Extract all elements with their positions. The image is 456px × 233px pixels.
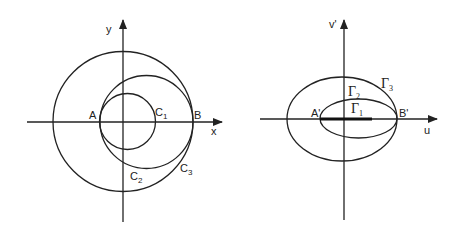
point-b-prime-label: B' [399,107,408,119]
point-a-label: A [89,109,97,121]
gamma2-label: Γ2 [348,84,360,101]
right-diagram: v' u A' B' Γ1 Γ2 Γ3 [260,18,437,220]
gamma3-label: Γ3 [381,76,393,93]
c3-label: C3 [180,162,193,177]
c2-label: C2 [130,170,143,185]
x-axis-label: x [211,125,217,137]
point-b-label: B [194,109,201,121]
y-axis-label: y [106,23,112,35]
c1-label: C1 [155,106,168,121]
v-axis-label: v' [329,18,337,30]
gamma1-label: Γ1 [351,101,363,118]
u-axis-label: u [424,124,430,136]
diagram-canvas: y x A B C1 C2 C3 v' u A' B' Γ1 Γ2 Γ3 [0,0,456,233]
left-diagram: y x A B C1 C2 C3 [27,20,222,222]
point-a-prime-label: A' [311,107,320,119]
